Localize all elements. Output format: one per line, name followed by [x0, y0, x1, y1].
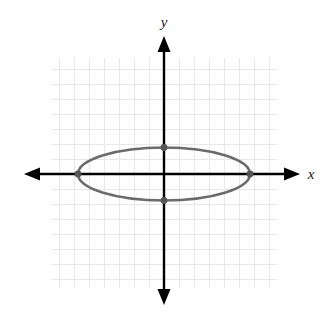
x-axis-label: x [307, 166, 315, 182]
vertex-dot-right [247, 171, 254, 178]
ellipse-figure: y x [0, 0, 326, 313]
vertex-dot-left [75, 171, 82, 178]
y-axis-label: y [159, 14, 168, 30]
coordinate-plane-svg: y x [0, 0, 326, 313]
covertex-dot-top [161, 144, 168, 151]
covertex-dot-bottom [161, 197, 168, 204]
